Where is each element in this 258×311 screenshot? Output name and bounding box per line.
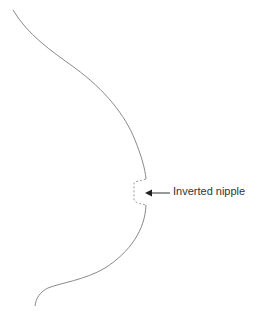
inverted-nipple-dashed-outline — [134, 179, 146, 205]
inverted-nipple-label: Inverted nipple — [173, 185, 245, 197]
breast-profile-diagram — [0, 0, 258, 311]
upper-breast-outline — [13, 10, 146, 179]
lower-breast-outline — [35, 205, 146, 306]
arrow-head-icon — [145, 190, 152, 197]
